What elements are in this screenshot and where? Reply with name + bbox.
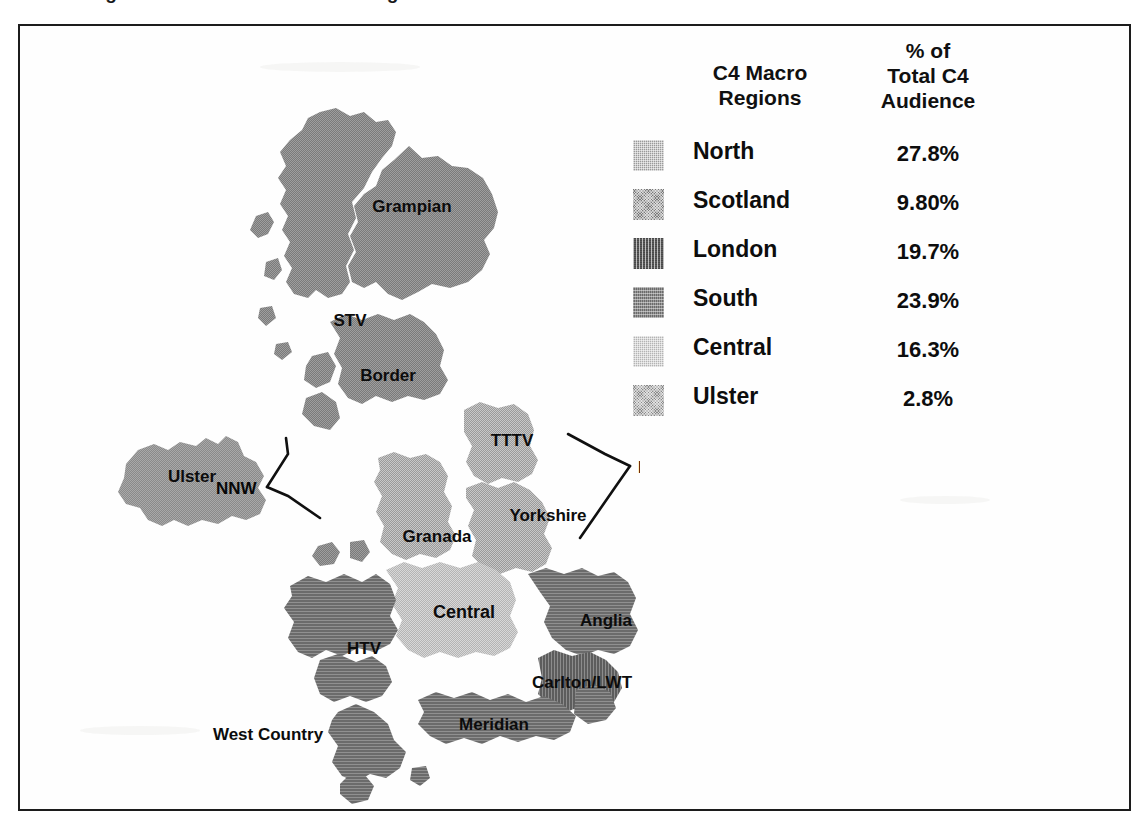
map-region-west-country-tip	[340, 774, 374, 804]
legend-value-north: 27.8%	[853, 141, 1003, 167]
map-region-sw-scotland	[302, 392, 340, 430]
legend-swatch-london	[633, 238, 664, 269]
legend-value-central: 16.3%	[853, 337, 1003, 363]
legend-row: London19.7%	[615, 230, 995, 279]
callout-nnw-label: NNW	[216, 479, 258, 498]
map-region-nnw-small	[350, 540, 370, 562]
map-region-nnw-isle	[312, 542, 340, 566]
map-label-west-country: West Country	[213, 725, 324, 744]
map-label-tttv: TTTV	[491, 431, 534, 450]
map-label-ulster: Ulster	[168, 467, 217, 486]
callout-north-label: North	[638, 458, 640, 477]
legend-row: Scotland9.80%	[615, 181, 995, 230]
legend-swatch-scotland	[633, 189, 664, 220]
map-label-stv: STV	[333, 311, 367, 330]
map-label-grampian: Grampian	[372, 197, 451, 216]
legend-header-regions: C4 Macro Regions	[675, 60, 845, 110]
legend-label-central: Central	[693, 334, 863, 361]
map-label-carlton-lwt: Carlton/LWT	[532, 673, 633, 692]
legend-value-ulster: 2.8%	[853, 386, 1003, 412]
legend-row: Ulster2.8%	[615, 377, 995, 426]
legend-label-scotland: Scotland	[693, 187, 863, 214]
scan-artifact	[900, 496, 990, 504]
legend-label-ulster: Ulster	[693, 383, 863, 410]
map-label-htv: HTV	[347, 639, 382, 658]
legend-rows: North27.8%Scotland9.80%London19.7%South2…	[615, 132, 995, 426]
map-region-stv-isle-4	[274, 342, 292, 360]
map-region-west-country	[328, 704, 406, 782]
callout-north-leader-upper	[568, 434, 630, 466]
legend-header-regions-line1: C4 Macro	[675, 60, 845, 85]
map-region-stv-isle-3	[258, 306, 276, 326]
map-label-yorkshire: Yorkshire	[509, 506, 586, 525]
map-region-stv-isle-1	[250, 212, 274, 238]
uk-regions-map: Grampian STV Border Ulster TTTV Yorkshir…	[20, 26, 640, 809]
map-region-scilly	[410, 766, 430, 786]
map-label-meridian: Meridian	[459, 715, 529, 734]
legend-label-north: North	[693, 138, 863, 165]
legend-swatch-north	[633, 140, 664, 171]
legend-swatch-south	[633, 287, 664, 318]
legend-label-london: London	[693, 236, 863, 263]
legend-header-percent-line2: Total C4	[853, 63, 1003, 88]
legend-header-regions-line2: Regions	[675, 85, 845, 110]
legend: C4 Macro Regions % of Total C4 Audience …	[615, 54, 995, 426]
map-label-central: Central	[433, 602, 495, 622]
legend-header-percent-line1: % of	[853, 38, 1003, 63]
map-label-granada: Granada	[403, 527, 473, 546]
legend-header-row: C4 Macro Regions % of Total C4 Audience	[615, 54, 995, 132]
legend-swatch-central	[633, 336, 664, 367]
map-label-border: Border	[360, 366, 416, 385]
legend-header-percent: % of Total C4 Audience	[853, 38, 1003, 113]
map-label-anglia: Anglia	[580, 611, 632, 630]
callout-north-leader-lower	[580, 466, 630, 538]
figure-caption-strip: Figure 3.3.1 Channel 4 Macro Regions	[0, 0, 1147, 6]
legend-header-percent-line3: Audience	[853, 88, 1003, 113]
legend-row: Central16.3%	[615, 328, 995, 377]
figure-caption: Figure 3.3.1 Channel 4 Macro Regions	[88, 0, 438, 4]
legend-row: North27.8%	[615, 132, 995, 181]
callout-nnw-leader-upper	[267, 438, 288, 487]
legend-swatch-ulster	[633, 385, 664, 416]
map-region-border-west	[304, 352, 336, 388]
map-region-htv-lobe	[314, 654, 392, 702]
figure-frame: Grampian STV Border Ulster TTTV Yorkshir…	[18, 24, 1131, 811]
legend-value-london: 19.7%	[853, 239, 1003, 265]
figure-page: Figure 3.3.1 Channel 4 Macro Regions	[0, 0, 1147, 820]
map-region-yorkshire	[466, 482, 552, 574]
callout-nnw-leader-lower	[267, 487, 320, 518]
map-region-stv-isle-2	[264, 258, 282, 280]
legend-value-scotland: 9.80%	[853, 190, 1003, 216]
legend-row: South23.9%	[615, 279, 995, 328]
legend-value-south: 23.9%	[853, 288, 1003, 314]
legend-label-south: South	[693, 285, 863, 312]
